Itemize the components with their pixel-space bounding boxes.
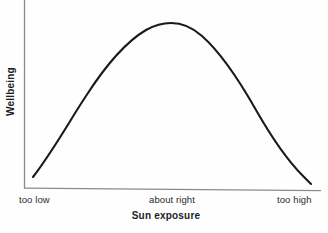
y-axis-title: Wellbeing — [5, 52, 16, 132]
x-tick-label-too-low: too low — [19, 194, 50, 205]
wellbeing-curve — [33, 23, 311, 184]
x-tick-label-about-right: about right — [149, 194, 195, 205]
x-axis-line — [24, 188, 321, 190]
x-tick-label-too-high: too high — [277, 194, 312, 205]
x-axis-title: Sun exposure — [0, 210, 328, 221]
chart-figure: too low about right too high Sun exposur… — [0, 0, 328, 233]
x-axis-title-text: Sun exposure — [132, 210, 201, 221]
